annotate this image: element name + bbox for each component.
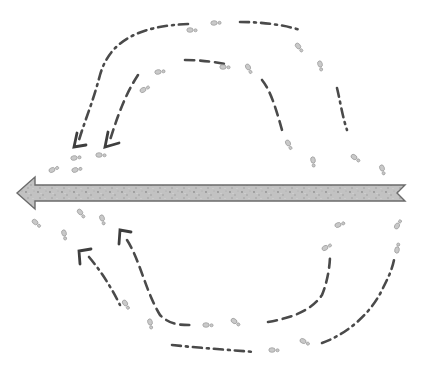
main-arrow bbox=[17, 177, 405, 209]
lower-inner-loop bbox=[76, 208, 345, 327]
upper-inner-loop bbox=[71, 60, 316, 173]
lower-outer-loop bbox=[31, 218, 402, 352]
footprint-loop-diagram bbox=[0, 0, 423, 371]
upper-outer-loop bbox=[48, 20, 386, 175]
